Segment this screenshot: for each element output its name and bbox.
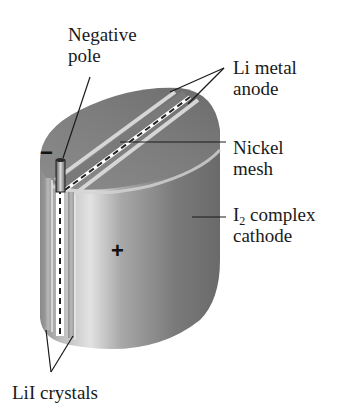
negative-pole bbox=[56, 160, 65, 192]
negative-symbol: − bbox=[40, 140, 53, 165]
label-i2-complex-cathode: I2 complex cathode bbox=[233, 204, 316, 246]
leader-anode-2 bbox=[188, 68, 224, 104]
lii-strip-right bbox=[68, 192, 74, 338]
label-negative-pole-line2: pole bbox=[68, 45, 137, 66]
label-cathode-line1: I2 complex bbox=[233, 204, 316, 225]
label-li-metal-anode: Li metal anode bbox=[233, 57, 297, 99]
negative-pole-cap bbox=[56, 158, 65, 162]
label-nickel-line1: Nickel bbox=[233, 137, 284, 158]
label-nickel-mesh: Nickel mesh bbox=[233, 137, 284, 179]
label-cathode-complex: complex bbox=[245, 204, 315, 225]
label-anode-line2: anode bbox=[233, 78, 297, 99]
label-cathode-line2: cathode bbox=[233, 225, 316, 246]
leader-anode-1 bbox=[170, 68, 224, 92]
label-negative-pole-line1: Negative bbox=[68, 24, 137, 45]
positive-symbol: + bbox=[111, 238, 124, 263]
lii-strip-left bbox=[44, 178, 52, 330]
label-lii-crystals: LiI crystals bbox=[12, 382, 98, 403]
label-anode-line1: Li metal bbox=[233, 57, 297, 78]
label-nickel-line2: mesh bbox=[233, 158, 284, 179]
label-negative-pole: Negative pole bbox=[68, 24, 137, 66]
